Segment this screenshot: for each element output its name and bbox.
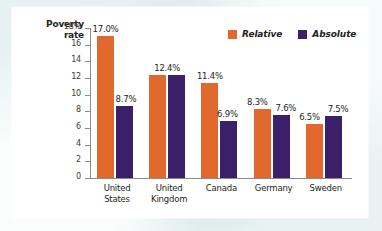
bar-group: 11.4%6.9% [195,28,247,178]
y-axis-tick-label: 12 [71,72,81,81]
x-axis-category-label: Sweden [295,183,357,194]
y-axis-tick-mark [85,111,90,112]
y-axis-tick: 14 [44,61,90,62]
y-axis-tick: 12 [44,78,90,79]
bar-relative[interactable]: 12.4% [149,75,166,178]
y-axis-tick-mark [85,28,90,29]
y-axis-tick: 6 [44,128,90,129]
y-axis-tick-label: 10 [71,89,81,98]
x-axis-category-label-line: Sweden [295,183,357,194]
chart-panel: Poverty rate Relative Absolute 18%161412… [12,7,368,218]
bar-group: 17.0%8.7% [91,28,143,178]
bar-value-label: 11.4% [197,71,223,81]
bar-value-label: 12.4% [154,63,180,73]
bar-absolute[interactable]: 7.6% [273,115,290,178]
y-axis-tick: 8 [44,111,90,112]
bar-value-label: 8.3% [247,97,268,107]
bar-value-label: 6.5% [299,112,320,122]
bar-absolute[interactable]: 7.5% [325,116,342,179]
y-axis-tick-mark [85,145,90,146]
y-axis-tick: 2 [44,161,90,162]
bar-group: 6.5%7.5% [300,28,352,178]
bar-group: 12.4%12.4% [143,28,195,178]
bar-relative[interactable]: 6.5% [306,124,323,178]
y-axis-tick-label: 8 [76,105,81,114]
x-axis-category-label-line: Kingdom [138,194,200,205]
bar-value-label: 8.7% [115,94,136,104]
y-axis-tick-label: 0 [76,172,81,181]
y-axis-tick: 18% [44,28,90,29]
y-axis-tick: 4 [44,145,90,146]
y-axis-tick-mark [85,178,90,179]
bar-absolute[interactable]: 8.7% [116,106,133,179]
bar-absolute[interactable]: 12.4% [168,75,185,178]
bar-value-label: 7.6% [275,103,296,113]
x-axis-category-labels: UnitedStatesUnitedKingdomCanadaGermanySw… [91,183,352,213]
y-axis-tick-label: 4 [76,139,81,148]
y-axis-tick-mark [85,161,90,162]
bar-relative[interactable]: 17.0% [97,36,114,178]
y-axis-tick-label: 2 [76,155,81,164]
bar-value-label: 7.5% [328,104,349,114]
y-axis-tick-mark [85,128,90,129]
bar-group: 8.3%7.6% [248,28,300,178]
y-axis-tick-mark [85,78,90,79]
y-axis-tick: 0 [44,178,90,179]
y-axis-tick-label: 6 [76,122,81,131]
bar-relative[interactable]: 8.3% [254,109,271,178]
y-axis-tick-mark [85,95,90,96]
bar-absolute[interactable]: 6.9% [220,121,237,179]
plot-area: 18%1614121086420 17.0%8.7%12.4%12.4%11.4… [90,28,352,179]
chart-screenshot: Poverty rate Relative Absolute 18%161412… [0,0,382,231]
bar-value-label: 6.9% [217,109,238,119]
bar-relative[interactable]: 11.4% [201,83,218,178]
y-axis-tick-label: 18% [64,22,81,31]
y-axis-tick: 10 [44,95,90,96]
y-axis-tick: 16 [44,45,90,46]
bar-groups: 17.0%8.7%12.4%12.4%11.4%6.9%8.3%7.6%6.5%… [91,28,352,179]
y-axis-tick-mark [85,45,90,46]
bar-value-label: 17.0% [92,24,118,34]
y-axis-tick-label: 16 [71,39,81,48]
y-axis-tick-label: 14 [71,55,81,64]
y-axis-tick-mark [85,61,90,62]
